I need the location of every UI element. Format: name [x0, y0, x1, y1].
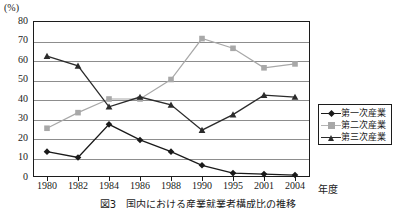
series-line — [47, 56, 295, 130]
legend-label-primary: 第一次産業 — [341, 108, 386, 119]
legend-marker-triangle-icon — [321, 132, 341, 143]
data-point — [168, 148, 175, 155]
data-point — [261, 171, 268, 178]
data-point — [75, 110, 81, 116]
legend-label-tertiary: 第三次産業 — [341, 132, 386, 143]
data-point — [137, 137, 144, 144]
figure-caption: 図3 国内における産業就業者構成比の推移 — [0, 196, 396, 208]
data-point — [44, 148, 51, 155]
data-point — [230, 170, 237, 177]
data-point — [292, 172, 299, 179]
data-point — [168, 77, 174, 83]
series-line — [47, 39, 295, 129]
legend-marker-diamond-icon — [321, 108, 341, 119]
data-point — [199, 36, 205, 42]
data-point — [261, 65, 267, 71]
data-point — [199, 162, 206, 169]
data-point — [292, 61, 298, 67]
legend-item-tertiary: 第三次産業 — [321, 131, 389, 143]
data-point — [230, 111, 237, 117]
legend-label-secondary: 第二次産業 — [341, 120, 386, 131]
data-point — [106, 96, 112, 102]
chart-legend: 第一次産業 第二次産業 第三次産業 — [318, 104, 392, 145]
legend-item-primary: 第一次産業 — [321, 107, 389, 119]
data-point — [44, 125, 50, 131]
legend-marker-square-icon — [321, 120, 341, 131]
data-point — [44, 53, 51, 59]
legend-item-secondary: 第二次産業 — [321, 119, 389, 131]
data-point — [230, 46, 236, 52]
series-1 — [44, 121, 299, 178]
chart-figure: (%) 0 10 20 30 40 50 60 70 80 1980 1982 … — [0, 0, 396, 208]
series-2 — [44, 36, 298, 131]
